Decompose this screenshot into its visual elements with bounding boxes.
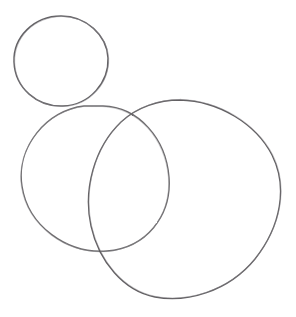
sketch-svg xyxy=(0,0,296,317)
paper-background xyxy=(0,0,296,317)
sketch-canvas xyxy=(0,0,296,317)
